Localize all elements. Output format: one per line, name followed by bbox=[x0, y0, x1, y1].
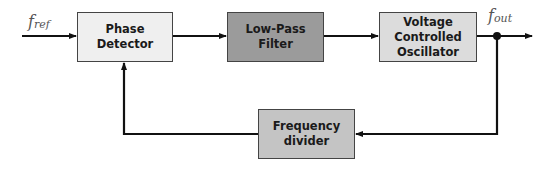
input-signal-label: fref bbox=[28, 12, 50, 31]
output-signal-label: fout bbox=[488, 6, 512, 25]
frequency-divider-block: Frequency divider bbox=[258, 109, 355, 159]
input-signal-subscript: ref bbox=[34, 18, 50, 31]
vco-block: Voltage Controlled Oscillator bbox=[379, 12, 477, 62]
low-pass-filter-block: Low-Pass Filter bbox=[227, 12, 324, 62]
phase-detector-block: Phase Detector bbox=[77, 12, 173, 62]
output-signal-subscript: out bbox=[494, 12, 512, 25]
divider-to-pd-arrow bbox=[124, 63, 258, 134]
